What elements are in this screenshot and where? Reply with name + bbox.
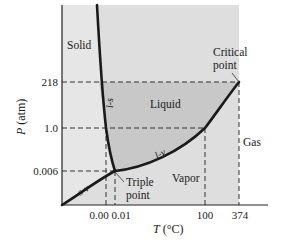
y-tick-0006: 0.006: [33, 165, 58, 177]
y-tick-1: 1.0: [44, 122, 58, 134]
phase-diagram-svg: 218 1.0 0.006 0.00 0.01 100 374 P (atm) …: [0, 0, 281, 244]
x-tick-000: 0.00: [89, 209, 109, 221]
x-tick-100: 100: [197, 209, 214, 221]
x-tick-374: 374: [232, 209, 249, 221]
region-label-solid: Solid: [67, 39, 92, 51]
region-label-vapor: Vapor: [172, 172, 200, 185]
curve-label-ls: l-s: [104, 98, 115, 108]
triple-point-label-line1: Triple: [126, 176, 154, 189]
critical-point-label-line1: Critical: [213, 46, 248, 58]
triple-point-label-line2: point: [126, 189, 150, 202]
region-label-gas: Gas: [243, 136, 261, 148]
x-tick-001: 0.01: [111, 209, 130, 221]
x-axis-title: T (°C): [153, 222, 183, 236]
region-label-liquid: Liquid: [150, 98, 181, 111]
y-tick-218: 218: [42, 76, 59, 88]
y-axis-title: P (atm): [14, 99, 28, 136]
phase-diagram: 218 1.0 0.006 0.00 0.01 100 374 P (atm) …: [0, 0, 281, 244]
critical-point-label-line2: point: [213, 59, 237, 72]
